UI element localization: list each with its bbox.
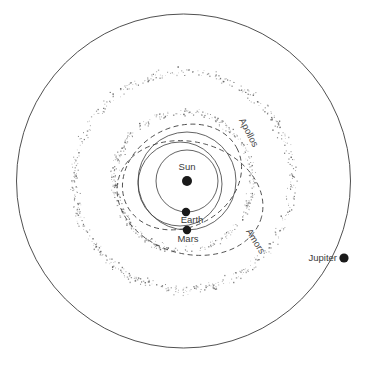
asteroid-dot — [111, 177, 112, 178]
asteroid-dot — [111, 179, 112, 180]
asteroid-dot — [202, 111, 203, 112]
asteroid-dot — [230, 230, 231, 231]
asteroid-dot — [284, 145, 285, 146]
asteroid-dot — [240, 278, 241, 279]
asteroid-dot — [127, 141, 128, 142]
asteroid-dot — [285, 134, 286, 135]
asteroid-dot — [150, 285, 151, 286]
asteroid-dot — [209, 285, 210, 286]
asteroid-dot — [78, 136, 79, 137]
asteroid-dot — [165, 75, 166, 76]
asteroid-dot — [194, 288, 195, 289]
asteroid-dot — [210, 245, 211, 246]
asteroid-dot — [191, 289, 192, 290]
asteroid-dot — [247, 160, 248, 161]
asteroid-dot — [288, 159, 289, 160]
asteroid-dot — [207, 286, 208, 287]
asteroid-dot — [216, 78, 217, 79]
asteroid-dot — [119, 215, 120, 216]
asteroid-dot — [246, 92, 247, 93]
asteroid-dot — [258, 259, 259, 260]
asteroid-dot — [153, 74, 154, 75]
asteroid-dot — [127, 137, 128, 138]
asteroid-dot — [121, 272, 122, 273]
asteroid-dot — [207, 75, 208, 76]
asteroid-dot — [135, 280, 136, 281]
asteroid-dot — [81, 217, 82, 218]
asteroid-dot — [75, 176, 76, 177]
asteroid-dot — [135, 233, 136, 234]
asteroid-dot — [75, 171, 76, 172]
jupiter-dot — [339, 253, 348, 262]
asteroid-dot — [208, 73, 209, 74]
asteroid-dot — [116, 186, 117, 187]
asteroid-dot — [242, 219, 243, 220]
asteroid-dot — [174, 74, 175, 75]
asteroid-dot — [76, 178, 77, 179]
asteroid-dot — [72, 164, 73, 165]
asteroid-dot — [263, 257, 264, 258]
asteroid-dot — [91, 116, 92, 117]
asteroid-dot — [131, 228, 132, 229]
asteroid-dot — [220, 243, 221, 244]
asteroid-dot — [148, 125, 149, 126]
asteroid-dot — [186, 287, 187, 288]
asteroid-dot — [209, 76, 210, 77]
asteroid-dot — [160, 75, 161, 76]
asteroid-dot — [224, 234, 225, 235]
asteroid-dot — [280, 127, 281, 128]
asteroid-dot — [279, 121, 280, 122]
asteroid-dot — [148, 81, 149, 82]
asteroid-dot — [285, 138, 286, 139]
asteroid-dot — [289, 210, 290, 211]
asteroid-dot — [288, 214, 289, 215]
asteroid-dot — [242, 216, 243, 217]
asteroid-dot — [212, 284, 213, 285]
asteroid-dot — [83, 229, 84, 230]
asteroid-dot — [77, 223, 78, 224]
asteroid-dot — [200, 284, 201, 285]
asteroid-dot — [198, 74, 199, 75]
asteroid-dot — [172, 72, 173, 73]
asteroid-dot — [105, 262, 106, 263]
asteroid-dot — [155, 246, 156, 247]
asteroid-dot — [70, 189, 71, 190]
asteroid-dot — [92, 241, 93, 242]
asteroid-dot — [112, 167, 113, 168]
asteroid-dot — [233, 129, 234, 130]
asteroid-dot — [123, 93, 124, 94]
asteroid-dot — [230, 130, 231, 131]
asteroid-dot — [229, 283, 230, 284]
asteroid-dot — [123, 89, 124, 90]
asteroid-dot — [226, 125, 227, 126]
asteroid-dot — [138, 85, 139, 86]
asteroid-dot — [120, 216, 121, 217]
asteroid-dot — [225, 236, 226, 237]
asteroid-dot — [207, 74, 208, 75]
asteroid-dot — [129, 136, 130, 137]
asteroid-dot — [165, 116, 166, 117]
asteroid-dot — [140, 284, 141, 285]
asteroid-dot — [82, 220, 83, 221]
asteroid-dot — [131, 277, 132, 278]
asteroid-dot — [134, 81, 135, 82]
asteroid-dot — [226, 125, 227, 126]
asteroid-dot — [153, 243, 154, 244]
asteroid-dot — [290, 182, 291, 183]
asteroid-dot — [152, 76, 153, 77]
asteroid-dot — [141, 236, 142, 237]
asteroid-dot — [170, 73, 171, 74]
asteroid-dot — [184, 114, 185, 115]
asteroid-dot — [226, 238, 227, 239]
asteroid-dot — [86, 135, 87, 136]
asteroid-dot — [250, 197, 251, 198]
asteroid-dot — [102, 113, 103, 114]
asteroid-dot — [125, 87, 126, 88]
asteroid-dot — [248, 271, 249, 272]
asteroid-dot — [159, 247, 160, 248]
asteroid-dot — [178, 292, 179, 293]
asteroid-dot — [115, 175, 116, 176]
asteroid-dot — [148, 80, 149, 81]
asteroid-dot — [120, 151, 121, 152]
asteroid-dot — [82, 143, 83, 144]
